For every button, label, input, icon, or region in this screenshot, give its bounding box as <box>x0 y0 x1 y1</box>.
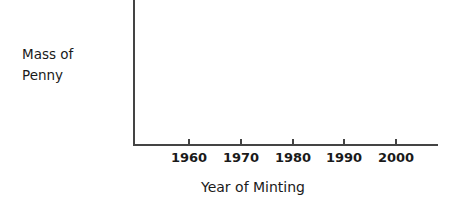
x-axis-tick <box>395 139 397 145</box>
x-axis-tick <box>188 139 190 145</box>
x-axis-tick-label: 1990 <box>314 150 374 165</box>
x-axis-tick-label: 1970 <box>211 150 271 165</box>
y-axis-title-line-2: Penny <box>22 65 122 86</box>
x-axis-title: Year of Minting <box>168 179 338 195</box>
chart-figure: 1960 1970 1980 1990 2000 Year of Minting… <box>0 0 452 206</box>
x-axis-tick <box>343 139 345 145</box>
y-axis-title-line-1: Mass of <box>22 44 122 65</box>
x-axis-tick-label: 2000 <box>366 150 426 165</box>
x-axis-line <box>133 144 438 146</box>
x-axis-tick-label: 1960 <box>159 150 219 165</box>
x-axis-tick <box>292 139 294 145</box>
x-axis-tick <box>240 139 242 145</box>
y-axis-title: Mass of Penny <box>22 44 122 86</box>
y-axis-line <box>133 0 135 146</box>
plot-area <box>135 0 438 144</box>
